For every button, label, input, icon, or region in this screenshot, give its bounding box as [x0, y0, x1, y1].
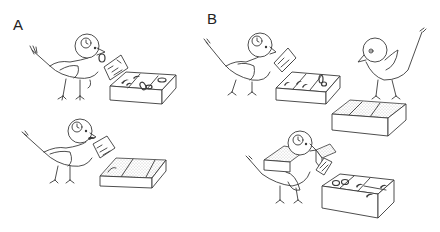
food-card-icon [274, 48, 296, 72]
bird-icon [204, 33, 276, 95]
tray-open [276, 72, 340, 104]
tray-open [110, 72, 176, 104]
tray-covered [332, 100, 406, 136]
scene-b-top-right [332, 28, 426, 136]
figure-illustration [0, 0, 440, 232]
bird-icon [30, 34, 105, 100]
scene-a-bottom [22, 119, 166, 188]
observer-bird-icon [358, 28, 426, 99]
bird-icon [22, 119, 96, 183]
food-card-icon [93, 136, 115, 158]
tray-covered [100, 158, 166, 188]
scene-b-bottom [246, 131, 394, 218]
scene-a-top [30, 34, 176, 104]
scene-b-top-left [204, 33, 340, 104]
tray-open [322, 174, 394, 218]
